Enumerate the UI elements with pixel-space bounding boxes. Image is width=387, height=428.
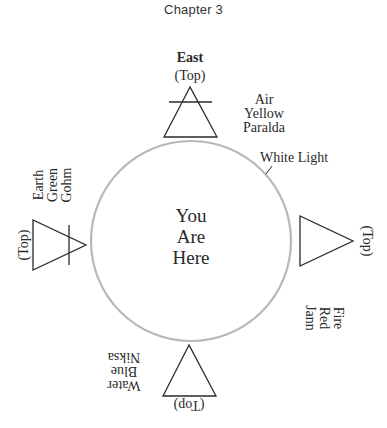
west-color: Blue (111, 364, 137, 379)
south-element: Fire (331, 307, 346, 330)
east-direction-label: East (177, 50, 204, 65)
fire-triangle-icon (300, 216, 353, 266)
west-top-marker: (Top) (173, 397, 204, 413)
diagram-page: Chapter 3 You Are Here White Light East … (0, 0, 387, 428)
south-elemental: Jann (303, 305, 318, 331)
water-triangle-icon (163, 345, 216, 396)
north-top-marker: (Top) (16, 229, 32, 260)
center-label: You Are Here (173, 205, 210, 268)
north-elemental: Gohm (59, 167, 74, 202)
east-quarter: East (Top) Air Yellow Paralda (164, 50, 286, 137)
south-top-marker: (Top) (359, 226, 375, 257)
center-line-2: Are (177, 226, 205, 247)
west-quarter: (Top) Water Blue Niksa (107, 345, 216, 413)
center-line-3: Here (173, 247, 210, 268)
center-line-1: You (176, 205, 207, 226)
east-element: Air (255, 92, 274, 107)
white-light-pointer (266, 166, 272, 174)
south-color: Red (317, 307, 332, 330)
north-quarter: (Top) Earth Green Gohm (16, 167, 86, 270)
air-triangle-icon (164, 87, 217, 137)
north-color: Green (45, 168, 60, 202)
east-top-marker: (Top) (175, 68, 206, 84)
west-element: Water (107, 378, 140, 393)
south-quarter: (Top) Fire Red Jann (300, 216, 375, 331)
west-elemental: Niksa (107, 350, 140, 365)
white-light-label: White Light (260, 150, 328, 165)
east-elemental: Paralda (243, 120, 286, 135)
earth-triangle-icon (33, 220, 86, 270)
elemental-directions-diagram: You Are Here White Light East (Top) Air … (0, 0, 387, 428)
east-color: Yellow (244, 106, 285, 121)
north-element: Earth (31, 170, 46, 200)
